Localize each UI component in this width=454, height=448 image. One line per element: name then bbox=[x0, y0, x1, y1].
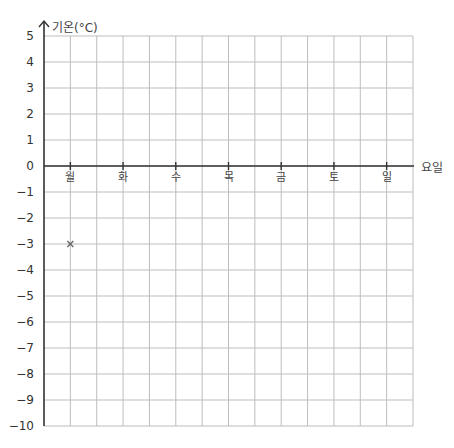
x-axis-title: 요일 bbox=[421, 158, 443, 175]
x-tick-label-mon: 월 bbox=[60, 171, 80, 184]
y-axis-title-text: 기온(°C) bbox=[52, 21, 98, 35]
y-tick-label: −3 bbox=[0, 237, 34, 251]
x-tick-label-thu: 목 bbox=[219, 171, 239, 184]
y-tick-label: −5 bbox=[0, 289, 34, 303]
y-tick-label: −8 bbox=[0, 367, 34, 381]
x-tick-label-fri: 금 bbox=[271, 171, 291, 184]
x-tick-label-wed: 수 bbox=[166, 171, 186, 184]
chart-grid bbox=[0, 0, 454, 448]
x-axis-title-text: 요일 bbox=[421, 161, 443, 175]
y-axis-title: 기온(°C) bbox=[52, 18, 98, 35]
y-tick-label: 4 bbox=[0, 55, 34, 69]
y-tick-label: 5 bbox=[0, 29, 34, 43]
y-tick-label: 0 bbox=[0, 159, 34, 173]
temperature-chart: 기온(°C) 요일 5 4 3 2 1 0 −1 −2 −3 −4 −5 −6 … bbox=[0, 0, 454, 448]
y-tick-label: −2 bbox=[0, 211, 34, 225]
x-tick-label-tue: 화 bbox=[113, 171, 133, 184]
y-tick-label: −9 bbox=[0, 393, 34, 407]
x-tick-label-sun: 일 bbox=[377, 171, 397, 184]
y-tick-label: −10 bbox=[0, 419, 34, 433]
y-tick-label: −1 bbox=[0, 185, 34, 199]
y-tick-label: 3 bbox=[0, 81, 34, 95]
y-tick-label: 2 bbox=[0, 107, 34, 121]
y-tick-label: 1 bbox=[0, 133, 34, 147]
y-tick-label: −6 bbox=[0, 315, 34, 329]
y-tick-label: −4 bbox=[0, 263, 34, 277]
y-tick-label: −7 bbox=[0, 341, 34, 355]
x-tick-label-sat: 토 bbox=[324, 171, 344, 184]
